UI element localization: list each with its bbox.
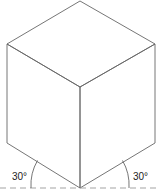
left-angle-label: 30° <box>12 171 27 182</box>
left-angle-arc <box>31 161 38 189</box>
cube-right-face <box>80 44 155 188</box>
cube-top-face <box>7 1 155 87</box>
right-angle-arc <box>123 161 130 189</box>
cube-left-face <box>7 44 80 188</box>
isometric-cube-diagram: 30° 30° <box>0 0 157 193</box>
right-angle-label: 30° <box>133 171 148 182</box>
